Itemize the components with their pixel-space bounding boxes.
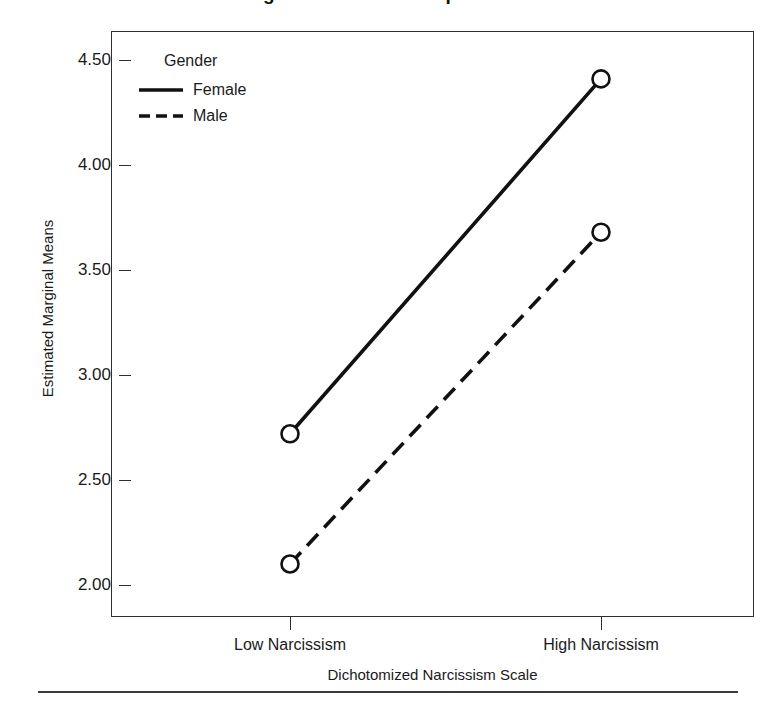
data-point-marker bbox=[282, 425, 299, 442]
series-line-male bbox=[290, 232, 601, 564]
series-female bbox=[282, 70, 610, 442]
interaction-plot-figure: Estimated Marginal Means 2.00 2.50 3.00 … bbox=[0, 0, 770, 707]
data-point-marker bbox=[282, 556, 299, 573]
series-line-female bbox=[290, 79, 601, 434]
data-point-marker bbox=[593, 224, 610, 241]
data-point-marker bbox=[593, 70, 610, 87]
data-layer bbox=[0, 0, 770, 707]
series-male bbox=[282, 224, 610, 573]
bottom-horizontal-rule bbox=[38, 691, 738, 693]
